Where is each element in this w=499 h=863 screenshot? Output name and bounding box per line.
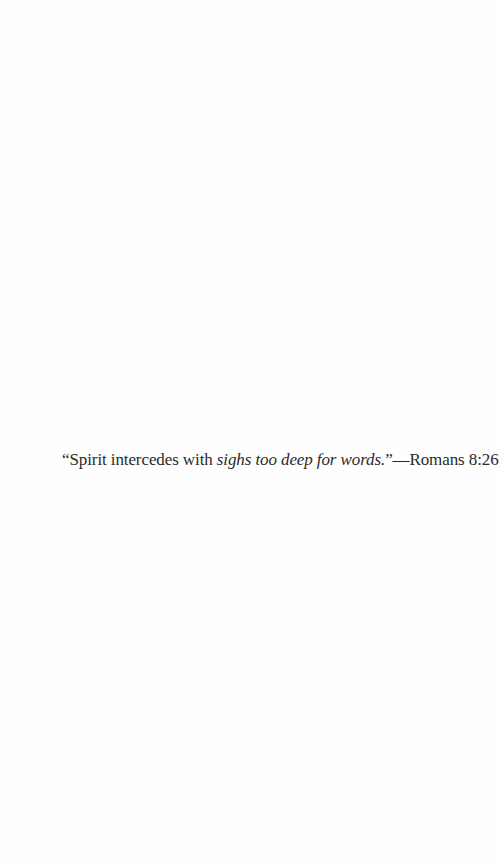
epigraph-quote-text: “Spirit intercedes with bbox=[62, 450, 217, 469]
epigraph-dash: — bbox=[393, 450, 410, 469]
epigraph-quote-close: ” bbox=[385, 450, 392, 469]
epigraph: “Spirit intercedes with sighs too deep f… bbox=[62, 449, 482, 471]
epigraph-citation: Romans 8:26 bbox=[409, 450, 498, 469]
epigraph-quote-italic: sighs too deep for words. bbox=[217, 450, 385, 469]
